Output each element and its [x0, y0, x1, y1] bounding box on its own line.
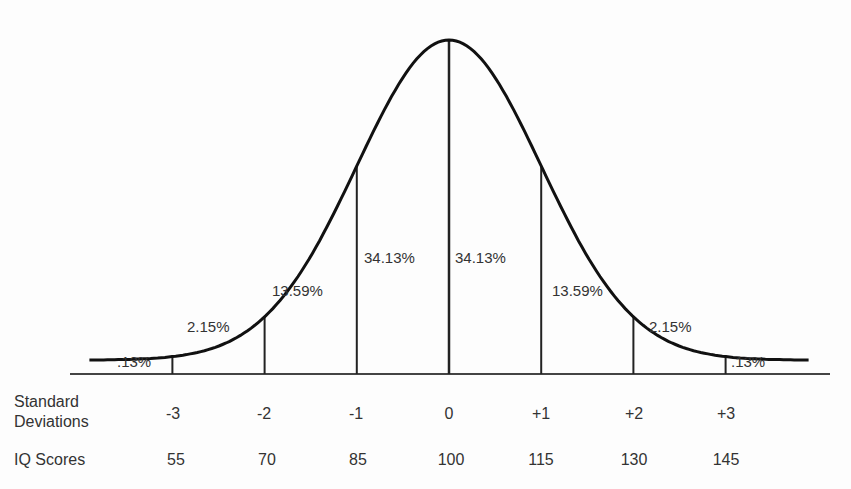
- iq-tick-label: 85: [349, 451, 367, 468]
- sd-row-label-line2: Deviations: [14, 413, 89, 430]
- iq-tick-label: 115: [528, 451, 554, 468]
- iq-tick-label: 55: [167, 451, 185, 468]
- sd-tick-label: +1: [532, 405, 550, 422]
- iq-tick-label: 70: [258, 451, 276, 468]
- pct-label-tail-left: .13%: [117, 353, 151, 370]
- pct-label-seg-2: 2.15%: [187, 318, 230, 335]
- pct-label-seg-5: 34.13%: [455, 249, 506, 266]
- iq-tick-label: 130: [621, 451, 648, 468]
- normal-distribution-chart: .13% 2.15% 13.59% 34.13% 34.13% 13.59% 2…: [0, 0, 851, 489]
- pct-label-seg-3: 13.59%: [272, 282, 323, 299]
- sd-tick-label: +3: [717, 405, 735, 422]
- pct-label-seg-4: 34.13%: [364, 249, 415, 266]
- iq-tick-label: 100: [438, 451, 465, 468]
- sd-tick-label: -1: [349, 405, 363, 422]
- sd-tick-label: 0: [445, 405, 454, 422]
- sd-tick-label: +2: [625, 405, 643, 422]
- sd-row-label-line1: Standard: [14, 393, 79, 410]
- iq-tick-label: 145: [713, 451, 740, 468]
- sd-tick-label: -3: [166, 405, 180, 422]
- sd-tick-label: -2: [257, 405, 271, 422]
- pct-label-seg-6: 13.59%: [552, 282, 603, 299]
- pct-label-tail-right: .13%: [731, 353, 765, 370]
- iq-row-label: IQ Scores: [14, 451, 85, 468]
- pct-label-seg-7: 2.15%: [649, 318, 692, 335]
